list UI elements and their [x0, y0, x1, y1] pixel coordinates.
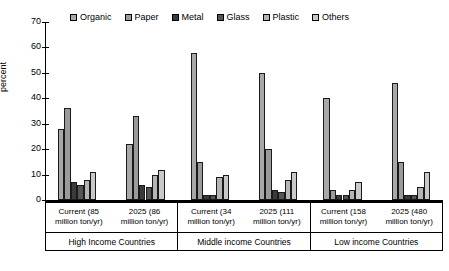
x-axis-band-label: Low income Countries [311, 233, 442, 250]
legend-item-label: Organic [80, 13, 112, 22]
x-axis-band-0: Current (85million ton/yr)2025 (86millio… [46, 202, 178, 250]
legend-item-label: Metal [182, 13, 204, 22]
y-tick-mark [42, 47, 49, 48]
x-axis-band-label: Middle income Countries [178, 233, 309, 250]
y-tick-label: 60 [19, 42, 41, 51]
band-subgroup-row: Current (34million ton/yr)2025 (111milli… [178, 202, 309, 233]
y-tick-label: 50 [19, 68, 41, 77]
bar-others-1 [158, 170, 164, 201]
y-tick-label: 70 [19, 17, 41, 26]
band-subgroup-row: Current (85million ton/yr)2025 (86millio… [46, 202, 177, 233]
subgroup-label-line1: Current (158 [321, 207, 366, 217]
y-axis-label: percent [0, 62, 8, 92]
legend-swatch-icon [312, 14, 319, 21]
subgroup-label-line1: Current (85 [59, 207, 99, 217]
legend-item-label: Plastic [273, 13, 300, 22]
x-axis-band-2: Current (158million ton/yr)2025 (480mill… [311, 202, 442, 250]
y-tick-label: 40 [19, 93, 41, 102]
y-tick-mark [42, 22, 49, 23]
legend-item-label: Paper [135, 13, 159, 22]
legend-item-paper[interactable]: Paper [125, 13, 159, 22]
bar-others-0 [90, 172, 96, 200]
legend-item-label: Glass [227, 13, 250, 22]
y-tick-mark [42, 98, 49, 99]
x-axis-subgroup-label: 2025 (480million ton/yr) [376, 202, 442, 232]
legend-item-metal[interactable]: Metal [172, 13, 204, 22]
y-axis-line [45, 22, 46, 200]
y-tick-mark [42, 149, 49, 150]
subgroup-label-line2: million ton/yr) [385, 217, 433, 227]
subgroup-label-line1: 2025 (480 [391, 207, 427, 217]
y-tick-mark [42, 175, 49, 176]
y-tick-label: 10 [19, 170, 41, 179]
legend-item-others[interactable]: Others [312, 13, 349, 22]
y-tick-mark [42, 73, 49, 74]
x-axis-subgroup-label: 2025 (86million ton/yr) [112, 202, 178, 232]
subgroup-label-line2: million ton/yr) [121, 217, 169, 227]
bar-others-4 [355, 182, 361, 200]
subgroup-label-line2: million ton/yr) [187, 217, 235, 227]
x-axis-subgroup-label: Current (158million ton/yr) [311, 202, 377, 232]
x-axis-subgroup-label: Current (85million ton/yr) [46, 202, 112, 232]
legend-item-organic[interactable]: Organic [70, 13, 112, 22]
bar-others-2 [223, 175, 229, 200]
legend-item-glass[interactable]: Glass [217, 13, 250, 22]
legend-swatch-icon [263, 14, 270, 21]
bar-others-5 [424, 172, 430, 200]
subgroup-label-line2: million ton/yr) [253, 217, 301, 227]
x-axis-subgroup-label: 2025 (111million ton/yr) [244, 202, 310, 232]
subgroup-label-line2: million ton/yr) [55, 217, 103, 227]
band-subgroup-row: Current (158million ton/yr)2025 (480mill… [311, 202, 442, 233]
x-axis-label-table: Current (85million ton/yr)2025 (86millio… [45, 201, 443, 251]
legend-swatch-icon [70, 14, 77, 21]
y-tick-label: 20 [19, 144, 41, 153]
plot-area: 706050403020100 [45, 22, 443, 200]
legend-swatch-icon [217, 14, 224, 21]
x-axis-band-1: Current (34million ton/yr)2025 (111milli… [178, 202, 310, 250]
bar-organic-4 [323, 98, 329, 200]
subgroup-label-line1: 2025 (86 [129, 207, 161, 217]
subgroup-label-line1: 2025 (111 [259, 207, 294, 217]
y-tick-mark [42, 124, 49, 125]
legend-item-plastic[interactable]: Plastic [263, 13, 300, 22]
subgroup-label-line2: million ton/yr) [320, 217, 368, 227]
subgroup-label-line1: Current (34 [191, 207, 231, 217]
x-axis-band-label: High Income Countries [46, 233, 177, 250]
bar-others-3 [291, 172, 297, 200]
legend-swatch-icon [172, 14, 179, 21]
legend-item-label: Others [322, 13, 349, 22]
y-tick-label: 0 [19, 195, 41, 204]
y-tick-label: 30 [19, 119, 41, 128]
x-axis-subgroup-label: Current (34million ton/yr) [178, 202, 244, 232]
legend-swatch-icon [125, 14, 132, 21]
